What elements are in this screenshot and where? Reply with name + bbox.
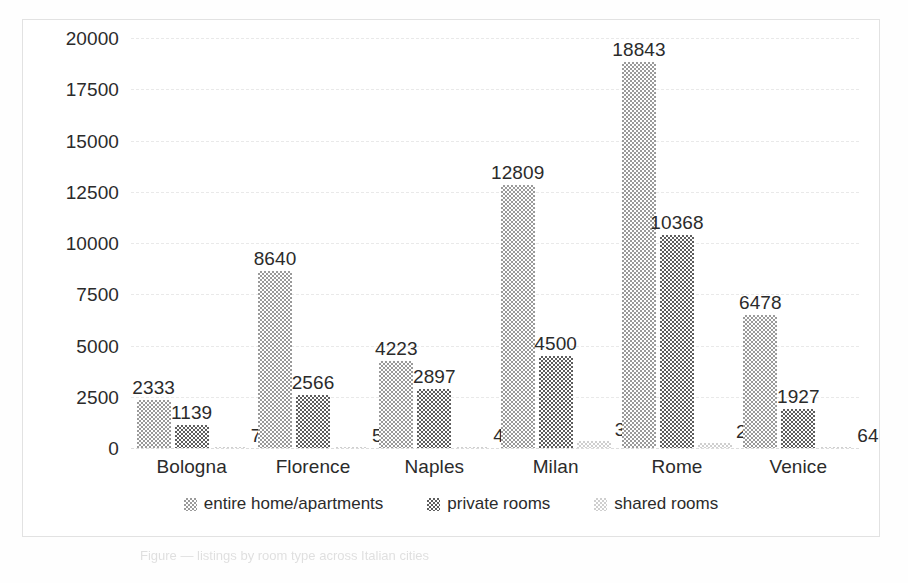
bar-slot: 225 — [698, 38, 732, 448]
bar-slot: 8640 — [258, 38, 292, 448]
y-axis-tick-label: 20000 — [66, 29, 119, 48]
bar-value-label: 64 — [857, 426, 878, 445]
legend-swatch-entire-home — [184, 498, 197, 511]
bar-group-bars: 6478192764 — [738, 38, 859, 448]
scanned-page: 20000175001500012500100007500500025000 2… — [0, 0, 908, 583]
bar-group: 8640256656 — [252, 38, 373, 448]
bar[interactable] — [379, 361, 413, 448]
bar-slot: 56 — [334, 38, 368, 448]
legend-swatch-shared-rooms — [594, 498, 607, 511]
bar[interactable] — [137, 400, 171, 448]
bar[interactable] — [455, 447, 489, 449]
bar[interactable] — [417, 389, 451, 448]
bar-group-bars: 1884310368225 — [616, 38, 737, 448]
y-axis-tick-label: 7500 — [76, 285, 119, 304]
bar-value-label: 10368 — [650, 213, 703, 232]
bar-slot: 12809 — [501, 38, 535, 448]
x-axis-tick-label: Florence — [252, 456, 373, 478]
chart-legend: entire home/apartmentsprivate roomsshare… — [23, 494, 879, 514]
bar-slot: 49 — [455, 38, 489, 448]
chart-frame: 20000175001500012500100007500500025000 2… — [22, 19, 880, 537]
bar[interactable] — [660, 235, 694, 448]
bar[interactable] — [501, 185, 535, 448]
bar-value-label: 4500 — [534, 334, 577, 353]
bar-value-label: 12809 — [491, 163, 544, 182]
bar-slot: 4223 — [379, 38, 413, 448]
legend-item-label: entire home/apartments — [204, 494, 384, 514]
x-axis-tick-label: Venice — [738, 456, 859, 478]
legend-item[interactable]: private rooms — [427, 494, 550, 514]
bar-slot: 350 — [577, 38, 611, 448]
bar-group: 2333113970 — [131, 38, 252, 448]
y-axis-tick-label: 17500 — [66, 80, 119, 99]
bar-value-label: 8640 — [254, 249, 297, 268]
bar-group-bars: 2333113970 — [131, 38, 252, 448]
bar[interactable] — [698, 443, 732, 448]
y-axis-tick-label: 10000 — [66, 234, 119, 253]
bar-slot: 2333 — [137, 38, 171, 448]
bar-slot: 70 — [213, 38, 247, 448]
legend-swatch-private-rooms — [427, 498, 440, 511]
bar[interactable] — [577, 441, 611, 448]
bar-slot: 4500 — [539, 38, 573, 448]
bar-group: 6478192764 — [738, 38, 859, 448]
x-axis-tick-label: Bologna — [131, 456, 252, 478]
y-axis-tick-label: 2500 — [76, 387, 119, 406]
bar[interactable] — [213, 447, 247, 449]
gridline — [131, 448, 859, 449]
bar-slot: 10368 — [660, 38, 694, 448]
bar[interactable] — [334, 447, 368, 449]
bar-value-label: 2897 — [413, 367, 456, 386]
legend-item-label: shared rooms — [614, 494, 718, 514]
bar-value-label: 6478 — [739, 293, 782, 312]
caption-artifact: Figure — listings by room type across It… — [140, 548, 840, 564]
bar-slot: 2897 — [417, 38, 451, 448]
bar-group: 128094500350 — [495, 38, 616, 448]
bar-value-label: 2566 — [292, 373, 335, 392]
x-axis-tick-label: Milan — [495, 456, 616, 478]
bar[interactable] — [781, 409, 815, 449]
legend-item[interactable]: entire home/apartments — [184, 494, 384, 514]
y-axis-tick-label: 15000 — [66, 131, 119, 150]
bar-group-bars: 4223289749 — [374, 38, 495, 448]
bar[interactable] — [819, 447, 853, 449]
bar-slot: 2566 — [296, 38, 330, 448]
bar-value-label: 2333 — [132, 378, 175, 397]
bar-groups: 2333113970864025665642232897491280945003… — [131, 38, 859, 448]
bar-slot: 1139 — [175, 38, 209, 448]
y-axis-tick-label: 0 — [108, 439, 119, 458]
bar[interactable] — [539, 356, 573, 448]
legend-item[interactable]: shared rooms — [594, 494, 718, 514]
y-axis-tick-label: 12500 — [66, 182, 119, 201]
bar-group: 1884310368225 — [616, 38, 737, 448]
bar[interactable] — [622, 62, 656, 448]
bar-value-label: 1927 — [777, 387, 820, 406]
plot-area: 2333113970864025665642232897491280945003… — [131, 38, 859, 448]
y-axis: 20000175001500012500100007500500025000 — [41, 38, 125, 448]
bar-value-label: 4223 — [375, 339, 418, 358]
bar-slot: 64 — [819, 38, 853, 448]
bar-slot: 18843 — [622, 38, 656, 448]
bar-value-label: 1139 — [171, 403, 212, 422]
bar-slot: 1927 — [781, 38, 815, 448]
bar[interactable] — [258, 271, 292, 448]
bar[interactable] — [296, 395, 330, 448]
bar-group: 4223289749 — [374, 38, 495, 448]
x-axis: BolognaFlorenceNaplesMilanRomeVenice — [131, 456, 859, 478]
x-axis-tick-label: Naples — [374, 456, 495, 478]
bar[interactable] — [743, 315, 777, 448]
bar[interactable] — [175, 425, 209, 448]
bar-group-bars: 8640256656 — [252, 38, 373, 448]
bar-value-label: 18843 — [612, 40, 665, 59]
y-axis-tick-label: 5000 — [76, 336, 119, 355]
legend-item-label: private rooms — [447, 494, 550, 514]
bar-group-bars: 128094500350 — [495, 38, 616, 448]
bar-slot: 6478 — [743, 38, 777, 448]
x-axis-tick-label: Rome — [616, 456, 737, 478]
